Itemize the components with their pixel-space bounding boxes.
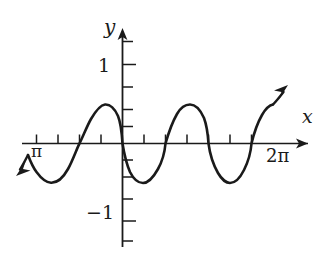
x-axis-ticks xyxy=(37,135,252,144)
curve-left-tail xyxy=(20,155,28,170)
x-tick-label-pi: π xyxy=(31,143,42,160)
sinusoid-curve-group xyxy=(20,92,284,183)
y-tick-label-one: 1 xyxy=(98,56,110,75)
plot-svg xyxy=(0,0,326,257)
y-tick-label-negative-one: −1 xyxy=(86,203,114,222)
y-axis-ticks xyxy=(123,42,137,242)
sinusoid-figure: y x 1 −1 π 2π xyxy=(0,0,326,257)
curve-right-arrowhead xyxy=(274,85,288,100)
x-tick-label-two-pi: 2π xyxy=(266,147,289,165)
axis-arrowheads xyxy=(118,28,308,148)
y-axis-label: y xyxy=(104,17,115,37)
x-axis-label: x xyxy=(302,107,313,126)
